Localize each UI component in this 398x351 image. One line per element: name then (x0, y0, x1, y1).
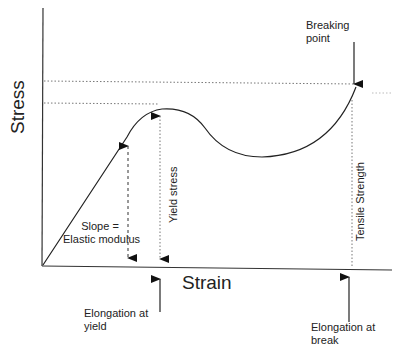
breaking-point-label: Breaking point (306, 19, 349, 45)
tensile-strength-label: Tensile Strength (354, 162, 367, 241)
elongation-break-label: Elongation at break (311, 321, 375, 347)
elongation-yield-line1: Elongation at (84, 307, 148, 320)
x-axis-label: Strain (182, 272, 232, 294)
yield-stress-label: Yield stress (167, 167, 180, 223)
x-axis (42, 266, 392, 270)
elongation-yield-label: Elongation at yield (84, 307, 148, 333)
slope-label-line2: Elastic modulus (63, 233, 140, 246)
elongation-break-line1: Elongation at (311, 321, 375, 334)
y-axis-label: Stress (7, 80, 29, 134)
elongation-yield-line2: yield (84, 320, 148, 333)
slope-label-line1: Slope = (60, 220, 140, 233)
y-axis (42, 8, 43, 266)
stress-strain-diagram (0, 0, 398, 351)
breaking-point-label-line2: point (306, 32, 349, 45)
slope-label: Slope = Elastic modulus (63, 220, 140, 246)
breaking-point-label-line1: Breaking (306, 19, 349, 32)
tensile-strength-level-line (44, 81, 356, 84)
yield-stress-level-line (44, 103, 158, 104)
elongation-break-line2: break (311, 334, 375, 347)
